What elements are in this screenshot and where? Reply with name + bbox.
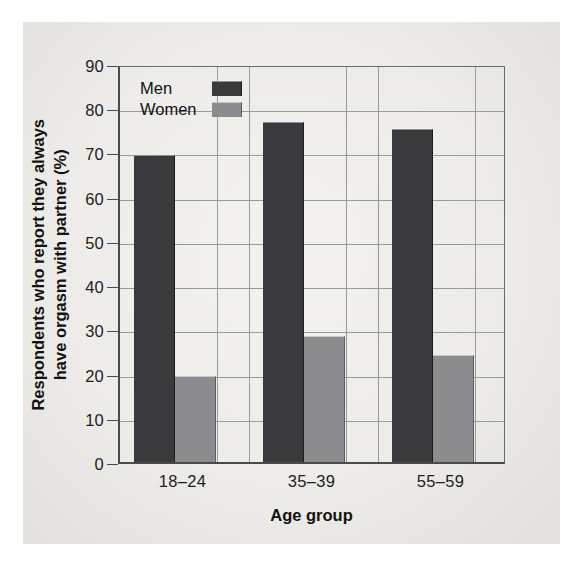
x-axis-category-label: 55–59 [391,472,491,491]
gridline [120,200,504,201]
bar-men-55-59 [392,129,433,462]
page-background: Respondents who report they always have … [0,0,583,566]
bar-men-18-24 [134,155,175,462]
y-axis-tick-label: 60 [46,189,104,208]
category-sub-separator [475,67,476,462]
y-axis-tick-label: 40 [46,278,104,297]
legend: MenWomen [140,78,242,120]
y-axis-tick [107,376,118,377]
y-axis-tick-label: 30 [46,322,104,341]
legend-label: Women [140,100,212,119]
y-axis-tick-label: 10 [46,410,104,429]
legend-swatch [212,102,242,117]
bar-women-55-59 [433,355,474,462]
category-sub-separator [346,67,347,462]
x-axis-title: Age group [118,506,505,525]
y-axis-tick [107,243,118,244]
y-axis-tick [107,464,118,465]
y-axis-tick [107,199,118,200]
legend-item-women: Women [140,99,242,120]
bar-women-35-39 [304,336,345,462]
y-axis-tick [107,420,118,421]
y-axis-tick-label: 50 [46,233,104,252]
y-axis-tick [107,66,118,67]
y-axis-tick [107,154,118,155]
y-axis-tick-label: 80 [46,101,104,120]
plot-area [118,66,505,464]
gridline [120,332,504,333]
category-separator [378,67,379,462]
y-axis-tick-label: 90 [46,57,104,76]
x-axis-category-label: 35–39 [262,472,362,491]
y-axis-tick [107,110,118,111]
bar-men-35-39 [263,122,304,463]
gridline [120,155,504,156]
bar-chart: Respondents who report they always have … [0,0,583,566]
y-axis-tick-label: 0 [46,455,104,474]
legend-swatch [212,81,242,96]
gridline [120,288,504,289]
x-axis-category-label: 18–24 [133,472,233,491]
y-axis-tick [107,331,118,332]
y-axis-tick-label: 20 [46,366,104,385]
y-axis-tick-label: 70 [46,145,104,164]
gridline [120,244,504,245]
category-sub-separator [217,67,218,462]
y-axis-tick [107,287,118,288]
legend-item-men: Men [140,78,242,99]
bar-women-18-24 [175,376,216,462]
category-separator [249,67,250,462]
legend-label: Men [140,79,212,98]
y-axis-labels: 0102030405060708090 [36,0,104,566]
